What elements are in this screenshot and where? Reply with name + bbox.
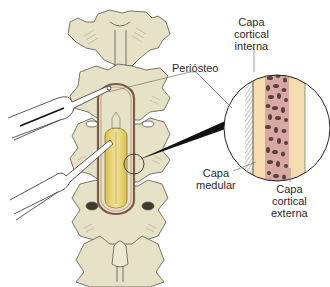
label-periosteo: Periósteo	[172, 62, 218, 74]
label-capa-cortical-externa: Capa cortical externa	[271, 183, 308, 219]
bone-detail-magnification	[224, 70, 330, 190]
label-capa-cortical-interna: Capa cortical interna	[234, 16, 269, 52]
cortical-inner	[253, 70, 265, 190]
spinous-process	[112, 241, 128, 267]
cortical-outer	[289, 70, 305, 190]
periosteum	[245, 70, 253, 190]
label-capa-medular: Capa medular	[196, 167, 236, 191]
spine-laminectomy-diagram	[0, 0, 330, 287]
upper-vertebra	[68, 10, 170, 66]
